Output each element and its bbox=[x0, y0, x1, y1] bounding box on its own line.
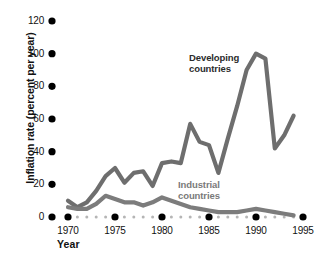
inflation-rate-line-chart: Inflation rate (percent per year) Year 0… bbox=[0, 0, 331, 263]
x-axis-minor-tick-dots bbox=[76, 216, 295, 219]
y-tick-dot-20 bbox=[48, 181, 55, 188]
y-axis-major-tick-dots bbox=[48, 17, 55, 220]
x-minor-tick-dot-1987 bbox=[226, 216, 229, 219]
x-axis-major-tick-dots bbox=[64, 213, 306, 220]
x-minor-tick-dot-1992 bbox=[273, 216, 276, 219]
developing-label-line2: countries bbox=[189, 63, 239, 74]
y-tick-dot-100 bbox=[48, 50, 55, 57]
x-minor-tick-dot-1972 bbox=[85, 216, 88, 219]
x-minor-tick-dot-1984 bbox=[198, 216, 201, 219]
plot-area bbox=[0, 0, 331, 263]
x-tick-dot-1980 bbox=[158, 213, 165, 220]
x-minor-tick-dot-1983 bbox=[189, 216, 192, 219]
y-tick-dot-60 bbox=[48, 115, 55, 122]
x-minor-tick-dot-1982 bbox=[179, 216, 182, 219]
x-tick-dot-1990 bbox=[252, 213, 259, 220]
series-label-developing: Developing countries bbox=[189, 52, 239, 74]
x-minor-tick-dot-1981 bbox=[170, 216, 173, 219]
x-minor-tick-dot-1976 bbox=[123, 216, 126, 219]
x-tick-dot-1995 bbox=[299, 213, 306, 220]
y-tick-dot-40 bbox=[48, 148, 55, 155]
x-minor-tick-dot-1979 bbox=[151, 216, 154, 219]
x-minor-tick-dot-1977 bbox=[132, 216, 135, 219]
x-minor-tick-dot-1989 bbox=[245, 216, 248, 219]
x-minor-tick-dot-1971 bbox=[76, 216, 79, 219]
y-tick-dot-120 bbox=[48, 17, 55, 24]
x-minor-tick-dot-1988 bbox=[236, 216, 239, 219]
x-minor-tick-dot-1973 bbox=[95, 216, 98, 219]
y-tick-dot-80 bbox=[48, 83, 55, 90]
industrial-label-line1: Industrial bbox=[178, 179, 220, 190]
x-tick-dot-1985 bbox=[205, 213, 212, 220]
series-label-industrial: Industrial countries bbox=[178, 179, 220, 201]
x-tick-dot-1975 bbox=[111, 213, 118, 220]
x-minor-tick-dot-1974 bbox=[104, 216, 107, 219]
x-tick-dot-1970 bbox=[64, 213, 71, 220]
x-minor-tick-dot-1986 bbox=[217, 216, 220, 219]
y-tick-dot-0 bbox=[48, 213, 55, 220]
x-minor-tick-dot-1978 bbox=[142, 216, 145, 219]
industrial-label-line2: countries bbox=[178, 190, 220, 201]
x-minor-tick-dot-1991 bbox=[264, 216, 267, 219]
developing-label-line1: Developing bbox=[189, 52, 239, 63]
